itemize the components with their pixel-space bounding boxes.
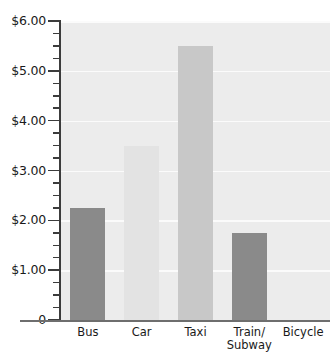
x-axis-tick-label: Bicycle bbox=[268, 326, 333, 339]
x-axis-labels: BusCarTaxiTrain/ SubwayBicycle bbox=[0, 0, 333, 358]
bar-chart: $6.00$5.00$4.00$3.00$2.00$1.000 BusCarTa… bbox=[0, 0, 333, 358]
